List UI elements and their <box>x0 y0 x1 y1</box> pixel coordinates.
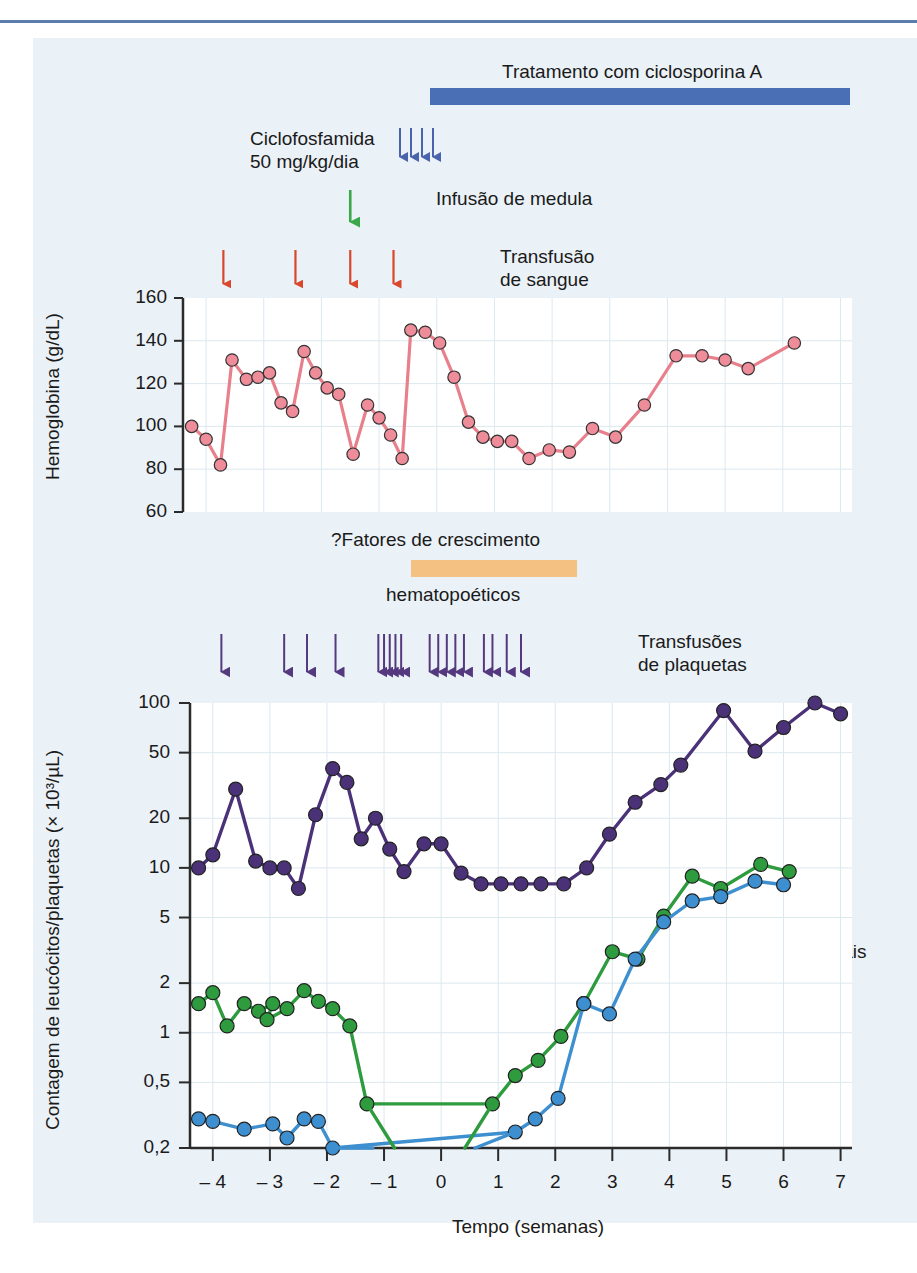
hemoglobin-data-point <box>298 345 310 357</box>
hemoglobin-data-point <box>506 435 518 447</box>
counts-data-point-0 <box>383 842 397 856</box>
counts-data-point-2 <box>777 878 791 892</box>
hemoglobin-data-point <box>609 431 621 443</box>
hemoglobin-data-point <box>252 371 264 383</box>
counts-data-point-0 <box>748 744 762 758</box>
counts-data-point-1 <box>260 1013 274 1027</box>
counts-data-point-2 <box>280 1131 294 1145</box>
counts-data-point-0 <box>557 877 571 891</box>
counts-data-point-1 <box>782 865 796 879</box>
counts-data-point-0 <box>494 877 508 891</box>
counts-data-point-0 <box>777 721 791 735</box>
counts-data-point-1 <box>206 986 220 1000</box>
counts-data-point-0 <box>514 877 528 891</box>
counts-data-point-1 <box>685 869 699 883</box>
hemoglobin-data-point <box>433 337 445 349</box>
hemoglobin-data-point <box>226 354 238 366</box>
hemoglobin-data-point <box>523 452 535 464</box>
counts-data-point-2 <box>237 1122 251 1136</box>
chart-drawing-layer <box>0 0 917 1273</box>
counts-data-point-0 <box>309 808 323 822</box>
counts-data-point-2 <box>266 1117 280 1131</box>
hemoglobin-data-point <box>696 350 708 362</box>
counts-data-point-1 <box>297 984 311 998</box>
counts-data-point-1 <box>343 1019 357 1033</box>
hemoglobin-data-point <box>321 382 333 394</box>
hemoglobin-data-point <box>333 388 345 400</box>
counts-data-point-1 <box>508 1069 522 1083</box>
hemoglobin-data-point <box>275 397 287 409</box>
hemoglobin-data-point <box>563 446 575 458</box>
counts-data-point-2 <box>685 894 699 908</box>
counts-data-point-0 <box>580 861 594 875</box>
counts-data-point-1 <box>237 997 251 1011</box>
counts-data-point-2 <box>628 952 642 966</box>
counts-data-point-0 <box>368 811 382 825</box>
counts-data-point-0 <box>192 861 206 875</box>
counts-data-point-0 <box>834 707 848 721</box>
counts-data-point-0 <box>263 861 277 875</box>
counts-data-point-0 <box>474 877 488 891</box>
counts-data-point-2 <box>311 1114 325 1128</box>
counts-data-point-1 <box>220 1019 234 1033</box>
counts-data-point-1 <box>754 857 768 871</box>
figure-root: Tratamento com ciclosporina A Ciclofosfa… <box>0 0 917 1273</box>
counts-data-point-0 <box>717 704 731 718</box>
hemoglobin-data-point <box>263 367 275 379</box>
hemoglobin-data-point <box>214 459 226 471</box>
counts-data-point-2 <box>551 1091 565 1105</box>
counts-data-point-1 <box>554 1029 568 1043</box>
hemoglobin-data-point <box>670 350 682 362</box>
hemoglobin-data-point <box>373 412 385 424</box>
counts-data-point-0 <box>674 758 688 772</box>
counts-data-point-0 <box>628 795 642 809</box>
hemoglobin-data-point <box>405 324 417 336</box>
hemoglobin-data-point <box>638 399 650 411</box>
counts-data-point-0 <box>654 778 668 792</box>
counts-data-point-0 <box>291 881 305 895</box>
counts-data-point-0 <box>206 848 220 862</box>
counts-plot-background <box>190 703 852 1148</box>
counts-data-point-0 <box>808 696 822 710</box>
hemoglobin-data-point <box>491 435 503 447</box>
counts-data-point-1 <box>605 945 619 959</box>
hemoglobin-data-point <box>742 362 754 374</box>
hemoglobin-data-point <box>477 431 489 443</box>
counts-data-point-0 <box>602 827 616 841</box>
counts-data-point-0 <box>454 866 468 880</box>
hemoglobin-data-point <box>448 371 460 383</box>
hemoglobin-data-point <box>788 337 800 349</box>
counts-data-point-0 <box>534 877 548 891</box>
counts-data-point-0 <box>354 832 368 846</box>
hemoglobin-data-point <box>719 354 731 366</box>
counts-data-point-1 <box>311 994 325 1008</box>
hemoglobin-data-point <box>396 452 408 464</box>
counts-data-point-1 <box>192 997 206 1011</box>
hemoglobin-data-point <box>361 399 373 411</box>
hemoglobin-data-point <box>185 420 197 432</box>
hemoglobin-data-point <box>286 405 298 417</box>
counts-data-point-0 <box>249 854 263 868</box>
counts-data-point-0 <box>397 865 411 879</box>
counts-data-point-0 <box>277 861 291 875</box>
hemoglobin-data-point <box>200 433 212 445</box>
counts-data-point-1 <box>280 1002 294 1016</box>
counts-data-point-2 <box>748 874 762 888</box>
counts-data-point-0 <box>434 837 448 851</box>
counts-data-point-2 <box>657 915 671 929</box>
counts-data-point-2 <box>192 1112 206 1126</box>
counts-data-point-2 <box>297 1112 311 1126</box>
counts-data-point-2 <box>577 997 591 1011</box>
hemoglobin-data-point <box>419 326 431 338</box>
counts-data-point-0 <box>326 762 340 776</box>
counts-data-point-2 <box>528 1112 542 1126</box>
counts-data-point-1 <box>326 1002 340 1016</box>
counts-data-point-0 <box>417 837 431 851</box>
hemoglobin-data-point <box>347 448 359 460</box>
counts-data-point-0 <box>340 775 354 789</box>
counts-data-point-2 <box>602 1007 616 1021</box>
counts-data-point-0 <box>229 782 243 796</box>
counts-data-point-2 <box>206 1114 220 1128</box>
hemoglobin-data-point <box>309 367 321 379</box>
hemoglobin-data-point <box>462 416 474 428</box>
